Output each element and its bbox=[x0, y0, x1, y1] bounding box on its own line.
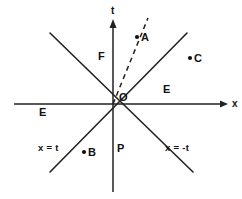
region-label-future: F bbox=[98, 51, 105, 62]
point-dot-C bbox=[188, 56, 192, 60]
axis-group bbox=[14, 19, 228, 192]
region-label-past: P bbox=[117, 143, 124, 154]
x-axis-arrowhead bbox=[220, 101, 228, 108]
t-axis-arrowhead bbox=[110, 19, 117, 28]
point-dot-A bbox=[135, 35, 139, 39]
point-label-C: C bbox=[194, 53, 202, 64]
region-label-elsewhere-left: E bbox=[39, 107, 46, 118]
t-axis-label: t bbox=[111, 6, 114, 16]
spacetime-diagram-figure: t x O F P E E A B C x = t x = -t bbox=[0, 0, 242, 199]
line-label-x-equals-t: x = t bbox=[38, 143, 59, 153]
point-dot-B bbox=[82, 150, 86, 154]
point-label-B: B bbox=[88, 147, 96, 158]
line-label-x-equals-minus-t: x = -t bbox=[165, 143, 189, 153]
x-axis-label: x bbox=[232, 99, 238, 109]
point-label-A: A bbox=[141, 32, 149, 43]
region-label-elsewhere-right: E bbox=[163, 84, 170, 95]
origin-label: O bbox=[119, 92, 128, 103]
